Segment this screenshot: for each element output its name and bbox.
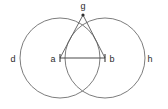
label-apex: g (80, 1, 85, 11)
label-right-circle: h (147, 54, 152, 64)
apex-point-marker (81, 13, 84, 16)
label-right-center: b (109, 54, 114, 64)
label-left-circle: d (10, 54, 15, 64)
geometry-figure: d h a b g (0, 0, 168, 109)
diagram-canvas: d h a b g (0, 0, 168, 109)
segment-bg (83, 15, 105, 58)
label-left-center: a (50, 54, 55, 64)
segment-ag (60, 15, 83, 58)
